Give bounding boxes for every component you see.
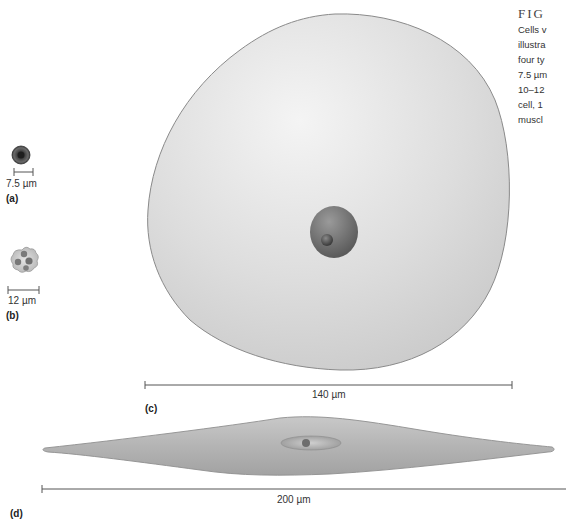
caption-line: 7.5 µm bbox=[518, 67, 566, 82]
scale-label-a: 7.5 µm bbox=[6, 178, 37, 189]
egg-cell bbox=[148, 14, 510, 370]
caption-line: 10–12 bbox=[518, 82, 566, 97]
smooth-muscle-cell bbox=[43, 417, 554, 475]
panel-label-b: (b) bbox=[6, 310, 19, 321]
panel-label-a: (a) bbox=[6, 193, 18, 204]
egg-nucleus bbox=[310, 206, 358, 258]
caption-line: muscl bbox=[518, 112, 566, 127]
panel-label-d: (d) bbox=[10, 508, 23, 519]
cell-size-diagram bbox=[0, 0, 566, 522]
scale-label-b: 12 µm bbox=[8, 295, 36, 306]
panel-label-c: (c) bbox=[145, 403, 157, 414]
muscle-nucleus bbox=[281, 436, 341, 450]
figure-caption: FIG Cells v illustra four ty 7.5 µm 10–1… bbox=[518, 6, 566, 127]
caption-line: cell, 1 bbox=[518, 97, 566, 112]
scale-bar-b bbox=[8, 286, 39, 294]
caption-line: Cells v bbox=[518, 22, 566, 37]
scale-label-c: 140 µm bbox=[312, 389, 346, 400]
scale-bar-c bbox=[145, 381, 512, 389]
caption-line: four ty bbox=[518, 52, 566, 67]
caption-line: illustra bbox=[518, 37, 566, 52]
white-blood-cell bbox=[11, 247, 38, 272]
scale-bar-a bbox=[14, 168, 33, 176]
red-blood-cell bbox=[12, 146, 30, 164]
figure-label: FIG bbox=[518, 6, 566, 22]
scale-bar-d bbox=[42, 485, 566, 493]
scale-label-d: 200 µm bbox=[277, 494, 311, 505]
